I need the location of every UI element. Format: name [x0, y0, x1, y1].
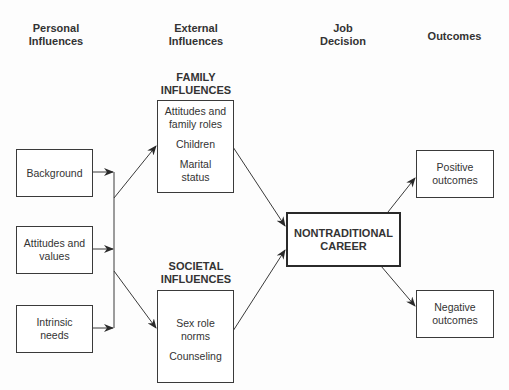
- column-header-decision: Job Decision: [318, 22, 368, 48]
- section-label-societal: SOCIETAL INFLUENCES: [151, 260, 241, 286]
- box-attitudes-values: Attitudes and values: [16, 226, 93, 274]
- column-header-external: External Influences: [156, 22, 236, 48]
- box-label: Attitudes and values: [23, 237, 86, 263]
- section-label-family: FAMILY INFLUENCES: [151, 71, 241, 97]
- box-intrinsic-needs: Intrinsic needs: [16, 305, 93, 353]
- box-positive-outcomes: Positive outcomes: [416, 150, 494, 198]
- box-label: Background: [26, 167, 82, 180]
- societal-item-sex-role-norms: Sex role norms: [158, 317, 233, 343]
- family-item-children: Children: [176, 138, 215, 151]
- box-background: Background: [16, 149, 93, 197]
- box-societal-influences: Sex role norms Counseling: [157, 290, 234, 383]
- box-nontraditional-career: NONTRADITIONAL CAREER: [286, 212, 401, 267]
- box-label: NONTRADITIONAL CAREER: [294, 227, 393, 253]
- family-item-attitudes-roles: Attitudes and family roles: [162, 105, 229, 131]
- column-header-outcomes: Outcomes: [416, 30, 493, 43]
- box-label: Intrinsic needs: [31, 316, 78, 342]
- career-decision-diagram: Personal Influences External Influences …: [0, 0, 509, 390]
- societal-item-counseling: Counseling: [169, 350, 222, 363]
- box-family-influences: Attitudes and family roles Children Mari…: [157, 100, 234, 193]
- box-negative-outcomes: Negative outcomes: [416, 290, 494, 338]
- box-label: Negative outcomes: [427, 301, 483, 327]
- family-item-marital-status: Marital status: [162, 158, 229, 184]
- column-header-personal: Personal Influences: [16, 22, 96, 48]
- box-label: Positive outcomes: [427, 161, 483, 187]
